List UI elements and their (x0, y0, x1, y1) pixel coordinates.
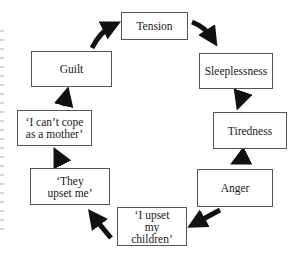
node-they-upset: ‘They upset me’ (30, 168, 110, 205)
arrow-they-upset-to-cant-cope (58, 156, 61, 165)
node-label: ‘I can’t cope as a mother’ (22, 116, 87, 140)
node-guilt: Guilt (31, 51, 112, 87)
arrow-tiredness-to-anger (239, 152, 244, 160)
node-cant-cope: ‘I can’t cope as a mother’ (17, 110, 92, 146)
node-label: Tiredness (228, 125, 272, 137)
node-label: ‘They upset me’ (45, 175, 95, 199)
node-upset-children: ‘I upset my children’ (117, 207, 187, 246)
node-label: Guilt (60, 63, 84, 75)
node-tiredness: Tiredness (213, 112, 287, 149)
arrow-tension-to-sleeplessness (192, 22, 212, 38)
node-label: Tension (136, 20, 172, 32)
arrow-guilt-to-tension (92, 26, 112, 48)
node-label: Anger (221, 182, 250, 194)
node-label: ‘I upset my children’ (126, 209, 178, 245)
node-sleeplessness: Sleeplessness (199, 53, 273, 89)
arrow-cant-cope-to-guilt (64, 96, 66, 106)
node-anger: Anger (197, 169, 273, 207)
node-label: Sleeplessness (205, 65, 268, 77)
node-tension: Tension (121, 12, 188, 40)
arrow-anger-to-upset-children (196, 210, 220, 223)
arrow-sleeplessness-to-tiredness (239, 92, 240, 101)
arrow-upset-children-to-they-upset (94, 217, 111, 238)
